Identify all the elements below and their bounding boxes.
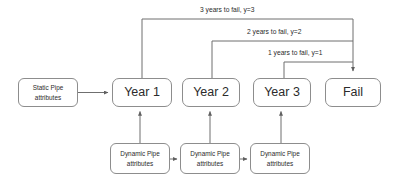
edge-label-1-years-to-fail: 1 years to fail, y=1: [268, 49, 322, 56]
node-static-pipe-line2: attributes: [31, 93, 66, 102]
node-dynamic-1-line2: attributes: [118, 159, 161, 168]
diagram-canvas: 3 years to fail, y=3 2 years to fail, y=…: [0, 0, 398, 183]
node-year-1[interactable]: Year 1: [112, 78, 172, 107]
node-year-2[interactable]: Year 2: [182, 78, 240, 107]
node-fail-label: Fail: [341, 85, 365, 99]
node-dynamic-1-line1: Dynamic Pipe: [118, 149, 161, 158]
node-dynamic-pipe-attributes-1[interactable]: Dynamic Pipe attributes: [110, 143, 170, 174]
node-static-pipe-attributes[interactable]: Static Pipe attributes: [18, 78, 78, 107]
connector-year3-to-fail: [284, 62, 353, 78]
connector-year2-to-fail: [212, 41, 353, 78]
node-dynamic-3-line1: Dynamic Pipe: [258, 149, 301, 158]
node-dynamic-2-line1: Dynamic Pipe: [188, 149, 231, 158]
node-dynamic-3-line2: attributes: [258, 159, 301, 168]
node-dynamic-2-line2: attributes: [188, 159, 231, 168]
edge-label-3-years-to-fail: 3 years to fail, y=3: [200, 6, 254, 13]
node-static-pipe-line1: Static Pipe: [31, 83, 66, 92]
node-year-3[interactable]: Year 3: [253, 78, 311, 107]
node-dynamic-pipe-attributes-3[interactable]: Dynamic Pipe attributes: [250, 143, 310, 174]
edge-label-2-years-to-fail: 2 years to fail, y=2: [247, 28, 301, 35]
node-year-2-label: Year 2: [191, 85, 231, 99]
node-year-3-label: Year 3: [262, 85, 302, 99]
node-year-1-label: Year 1: [122, 85, 162, 99]
node-dynamic-pipe-attributes-2[interactable]: Dynamic Pipe attributes: [180, 143, 240, 174]
node-fail[interactable]: Fail: [325, 78, 381, 107]
